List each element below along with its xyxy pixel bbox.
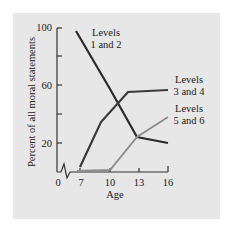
x-tick-label: 7 <box>78 177 83 188</box>
series-label-levels-3-4: Levels <box>175 74 203 85</box>
x-tick-label: 0 <box>55 177 60 188</box>
x-tick-label: 13 <box>134 177 145 188</box>
x-axis-title: Age <box>106 189 124 200</box>
series-label-levels-1-2: Levels <box>92 27 120 38</box>
y-axis-title: Percent of all moral statements <box>26 37 37 167</box>
y-tick-label: 100 <box>36 22 52 33</box>
series-label-levels-1-2: 1 and 2 <box>91 39 122 50</box>
line-chart: 100 60 20 0 7 10 13 16 Age Percent of al… <box>0 0 227 229</box>
y-tick-label: 60 <box>42 80 53 91</box>
series-levels-3-4-line <box>80 90 168 167</box>
y-tick-label: 20 <box>42 138 53 149</box>
series-label-levels-3-4: 3 and 4 <box>174 86 206 97</box>
series-label-levels-5-6: 5 and 6 <box>174 115 205 126</box>
x-tick-label: 16 <box>163 177 174 188</box>
x-tick-label: 10 <box>105 177 116 188</box>
series-label-levels-5-6: Levels <box>175 103 203 114</box>
